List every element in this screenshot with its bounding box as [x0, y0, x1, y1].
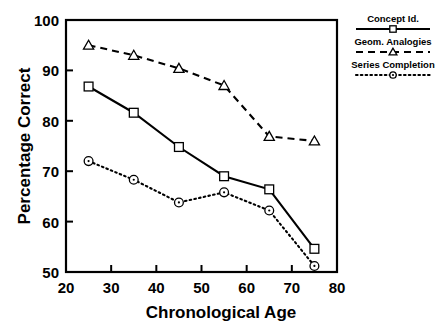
plot-frame: [66, 20, 337, 272]
y-tick-label-60: 60: [42, 214, 59, 231]
chart-legend: Concept Id.Geom. AnalogiesSeries Complet…: [351, 13, 435, 78]
y-tick-label-90: 90: [42, 62, 59, 79]
y-axis-title: Percentage Correct: [15, 67, 34, 224]
chart-figure: 5060708090100 20304050607080 Chronologic…: [0, 0, 441, 326]
series-line: [89, 45, 315, 141]
legend-label: Concept Id.: [367, 13, 419, 24]
x-tick-label-20: 20: [58, 279, 75, 296]
data-point: [129, 175, 138, 184]
data-point: [265, 185, 274, 194]
x-axis-title: Chronological Age: [146, 303, 297, 322]
legend-marker: [390, 26, 396, 32]
legend-entry-series-completion[interactable]: Series Completion: [351, 59, 435, 78]
data-point: [84, 157, 93, 166]
series-geom-analogies: [83, 40, 319, 145]
data-point: [175, 143, 184, 152]
y-tick-label-70: 70: [42, 163, 59, 180]
data-point: [309, 136, 319, 145]
y-tick-label-80: 80: [42, 113, 59, 130]
x-tick-label-70: 70: [283, 279, 300, 296]
line-chart-svg: 5060708090100 20304050607080 Chronologic…: [0, 0, 441, 326]
x-tick-label-60: 60: [238, 279, 255, 296]
data-point: [129, 108, 138, 117]
legend-entry-concept-id[interactable]: Concept Id.: [356, 13, 430, 32]
data-point: [310, 244, 319, 253]
y-tick-label-50: 50: [42, 264, 59, 281]
x-tick-label-40: 40: [148, 279, 165, 296]
series-series-completion: [84, 157, 319, 271]
data-point: [220, 188, 229, 197]
x-tick-label-30: 30: [103, 279, 120, 296]
y-axis-tick-labels: 5060708090100: [34, 12, 59, 281]
data-point: [83, 40, 93, 49]
x-tick-label-80: 80: [329, 279, 346, 296]
y-tick-label-100: 100: [34, 12, 59, 29]
legend-label: Series Completion: [351, 59, 435, 70]
legend-marker: [390, 72, 396, 78]
data-point: [84, 82, 93, 91]
data-point: [175, 198, 184, 207]
legend-label: Geom. Analogies: [354, 36, 431, 47]
data-point: [310, 262, 319, 271]
x-tick-label-50: 50: [193, 279, 210, 296]
data-point: [265, 206, 274, 215]
data-series-layer: [83, 40, 319, 270]
series-line: [89, 161, 315, 266]
legend-entry-geom-analogies[interactable]: Geom. Analogies: [354, 36, 431, 55]
data-point: [220, 172, 229, 181]
x-axis-tick-labels: 20304050607080: [58, 279, 346, 296]
